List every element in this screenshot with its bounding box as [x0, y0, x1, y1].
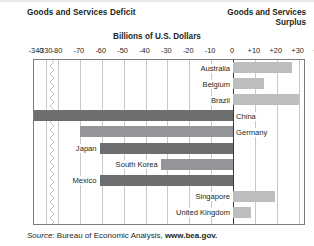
- bar-label-south-korea: South Korea: [114, 160, 160, 169]
- bar-australia: [233, 62, 292, 73]
- x-tick-minus80: -80: [52, 46, 63, 55]
- chart-figure: Goods and Services Deficit Goods and Ser…: [0, 0, 314, 246]
- bar-row: [34, 191, 304, 202]
- bar-row: [34, 94, 304, 105]
- x-tick-plus20: +20: [269, 46, 282, 55]
- plot-area: AustraliaBelgiumBrazilChinaGermanyJapanS…: [33, 59, 305, 225]
- bar-mexico: [100, 175, 233, 186]
- x-tick-minus70: -70: [74, 46, 85, 55]
- bar-belgium: [233, 78, 264, 89]
- bar-label-australia: Australia: [198, 64, 232, 73]
- bar-rows: AustraliaBelgiumBrazilChinaGermanyJapanS…: [34, 60, 304, 224]
- top-edge-artifact: [0, 0, 314, 2]
- x-axis-tick-labels: -340-330-80-70-60-50-40-30-20-100+10+20+…: [0, 46, 314, 58]
- bar-row: [34, 159, 304, 170]
- bar-label-belgium: Belgium: [201, 80, 232, 89]
- bar-label-united-kingdom: United Kingdom: [174, 208, 232, 217]
- bar-brazil: [233, 94, 299, 105]
- source-note: Source: Bureau of Economic Analysis, www…: [27, 231, 217, 240]
- surplus-heading: Goods and Services Surplus: [227, 8, 306, 27]
- x-tick-minus50: -50: [117, 46, 128, 55]
- x-tick-minus20: -20: [183, 46, 194, 55]
- x-tick-minus10: -10: [205, 46, 216, 55]
- bar-label-china: China: [234, 112, 258, 121]
- bar-row: [34, 78, 304, 89]
- surplus-heading-line2: Surplus: [227, 18, 306, 28]
- x-tick-plus10: +10: [248, 46, 261, 55]
- bar-label-germany: Germany: [234, 128, 269, 137]
- x-tick-minus60: -60: [95, 46, 106, 55]
- bar-china: [34, 110, 233, 121]
- bar-germany: [80, 126, 233, 137]
- bar-south-korea: [161, 159, 233, 170]
- deficit-heading: Goods and Services Deficit: [27, 8, 136, 17]
- bar-label-mexico: Mexico: [71, 176, 99, 185]
- x-tick-0: 0: [230, 46, 234, 55]
- bar-label-japan: Japan: [74, 144, 99, 153]
- source-url: www.bea.gov.: [165, 231, 217, 240]
- bar-singapore: [233, 191, 275, 202]
- bar-row: [34, 207, 304, 218]
- x-tick-plus40: +40: [313, 46, 314, 55]
- x-tick-minus330: -330: [38, 46, 53, 55]
- bar-row: [34, 110, 304, 121]
- bar-row: [34, 62, 304, 73]
- axis-units-title: Billions of U.S. Dollars: [0, 32, 314, 41]
- x-tick-plus30: +30: [291, 46, 304, 55]
- bar-japan: [100, 143, 233, 154]
- surplus-heading-line1: Goods and Services: [227, 8, 306, 18]
- x-tick-minus40: -40: [139, 46, 150, 55]
- source-prefix: Source:: [27, 231, 55, 240]
- bar-united-kingdom: [233, 207, 251, 218]
- x-tick-minus30: -30: [161, 46, 172, 55]
- bar-label-singapore: Singapore: [193, 192, 232, 201]
- bar-label-brazil: Brazil: [209, 96, 232, 105]
- source-agency: Bureau of Economic Analysis,: [57, 231, 163, 240]
